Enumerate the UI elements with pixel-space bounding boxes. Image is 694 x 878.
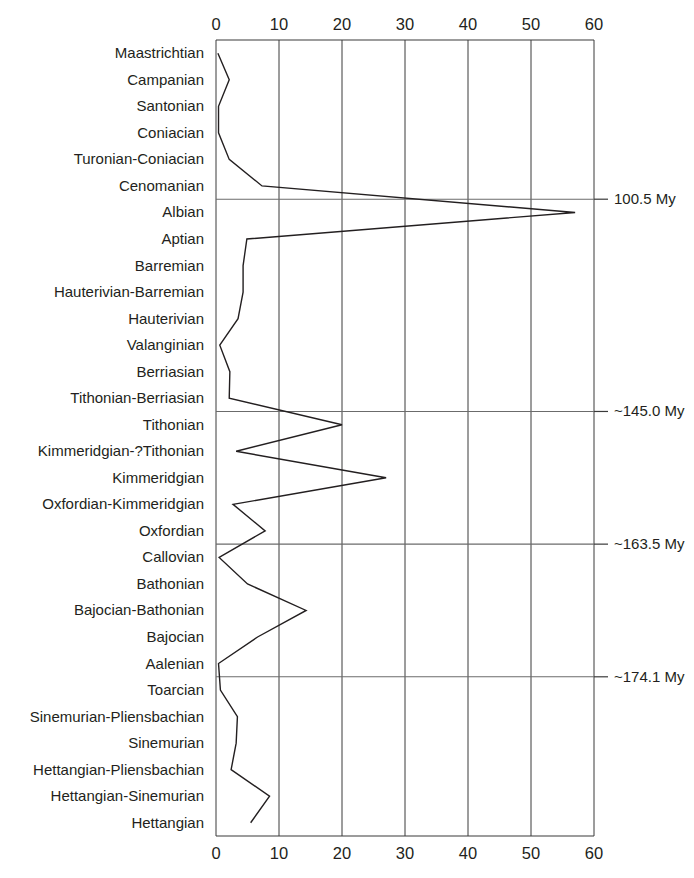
x-tick-label-bottom-50: 50 [522,844,540,862]
x-tick-label-top-10: 10 [270,15,288,33]
x-tick-label-bottom-60: 60 [585,844,603,862]
annotation-label-145.0: ~145.0 My [614,402,685,419]
category-label-campanian: Campanian [127,71,204,88]
x-tick-label-top-0: 0 [211,15,220,33]
category-label-turonian-coniacian: Turonian-Coniacian [74,150,204,167]
chart-canvas: 00101020203030404050506060MaastrichtianC… [0,0,694,878]
x-tick-label-bottom-0: 0 [211,844,220,862]
category-label-coniacian: Coniacian [137,124,204,141]
x-tick-label-top-50: 50 [522,15,540,33]
data-series-line [218,53,575,822]
category-label-barremian: Barremian [135,257,204,274]
category-label-hettangian-sinemurian: Hettangian-Sinemurian [51,787,204,804]
x-tick-label-top-60: 60 [585,15,603,33]
category-label-hettangian: Hettangian [131,814,204,831]
category-label-bajocian-bathonian: Bajocian-Bathonian [74,601,204,618]
category-label-oxfordian-kimmeridgian: Oxfordian-Kimmeridgian [42,495,204,512]
category-label-sinemurian: Sinemurian [128,734,204,751]
x-tick-label-bottom-40: 40 [459,844,477,862]
annotation-label-163.5: ~163.5 My [614,535,685,552]
x-tick-label-top-30: 30 [396,15,414,33]
x-tick-label-bottom-30: 30 [396,844,414,862]
category-label-toarcian: Toarcian [147,681,204,698]
geologic-stage-line-chart: 00101020203030404050506060MaastrichtianC… [0,0,694,878]
category-label-bajocian: Bajocian [146,628,204,645]
category-label-callovian: Callovian [142,548,204,565]
x-tick-label-bottom-20: 20 [333,844,351,862]
category-label-hauterivian: Hauterivian [128,310,204,327]
category-label-albian: Albian [162,203,204,220]
category-label-maastrichtian: Maastrichtian [115,44,204,61]
category-label-aalenian: Aalenian [146,655,204,672]
x-tick-label-bottom-10: 10 [270,844,288,862]
category-label-kimmeridgian: Kimmeridgian [112,469,204,486]
category-label-bathonian: Bathonian [136,575,204,592]
category-label-cenomanian: Cenomanian [119,177,204,194]
x-tick-label-top-20: 20 [333,15,351,33]
annotation-label-100.5: 100.5 My [614,190,676,207]
category-label-tithonian: Tithonian [143,416,204,433]
category-label-hettangian-pliensbachian: Hettangian-Pliensbachian [33,761,204,778]
annotation-label-174.1: ~174.1 My [614,668,685,685]
category-label-aptian: Aptian [161,230,204,247]
category-label-hauterivian-barremian: Hauterivian-Barremian [54,283,204,300]
category-label-tithonian-berriasian: Tithonian-Berriasian [70,389,204,406]
category-label-valanginian: Valanginian [127,336,204,353]
category-label-kimmeridgian-tithonian: Kimmeridgian-?Tithonian [38,442,204,459]
x-tick-label-top-40: 40 [459,15,477,33]
category-label-sinemurian-pliensbachian: Sinemurian-Pliensbachian [30,708,204,725]
category-label-berriasian: Berriasian [136,363,204,380]
category-label-oxfordian: Oxfordian [139,522,204,539]
category-label-santonian: Santonian [136,97,204,114]
